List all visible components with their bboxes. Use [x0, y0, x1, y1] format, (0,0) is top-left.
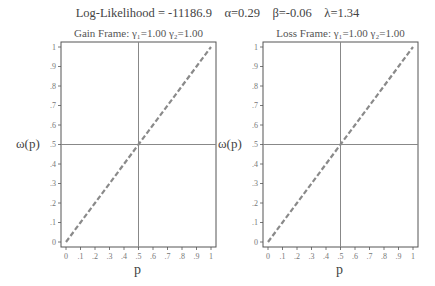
loss-x-tick-label: .8 — [381, 252, 387, 261]
loss-x-tick-label: .5 — [338, 252, 344, 261]
gain-y-tick-label: .8 — [50, 82, 56, 91]
gain-y-tick-label: .1 — [50, 218, 56, 227]
loss-x-tick-label: 0 — [266, 252, 270, 261]
loss-y-tick-label: 0 — [254, 238, 258, 247]
loss-y-tick-label: .3 — [252, 179, 258, 188]
loss-y-tick-label: .4 — [252, 160, 258, 169]
gain-x-tick-label: .5 — [136, 252, 142, 261]
gain-y-tick-label: .3 — [50, 179, 56, 188]
loss-x-tick-label: .1 — [280, 252, 286, 261]
gain-y-tick-label: .2 — [50, 199, 56, 208]
loss-x-tick-label: .3 — [309, 252, 315, 261]
loss-x-tick-label: .4 — [323, 252, 329, 261]
loss-y-tick-label: .7 — [252, 101, 258, 110]
gain-x-tick-label: .4 — [121, 252, 127, 261]
gain-y-tick-label: 1 — [52, 43, 56, 52]
loss-x-tick-label: 1 — [411, 252, 415, 261]
loss-y-tick-label: .2 — [252, 199, 258, 208]
gain-x-tick-label: .9 — [194, 252, 200, 261]
gain-y-tick-label: .4 — [50, 160, 56, 169]
loss-y-tick-label: .8 — [252, 82, 258, 91]
plot-canvas: 0.1.2.3.4.5.6.7.8.910.1.2.3.4.5.6.7.8.91… — [0, 0, 435, 286]
gain-x-tick-label: .6 — [150, 252, 156, 261]
loss-x-tick-label: .7 — [367, 252, 373, 261]
gain-x-tick-label: .2 — [92, 252, 98, 261]
gain-x-tick-label: .8 — [179, 252, 185, 261]
loss-y-tick-label: 1 — [254, 43, 258, 52]
loss-y-tick-label: .6 — [252, 121, 258, 130]
gain-x-tick-label: 0 — [64, 252, 68, 261]
gain-y-tick-label: .6 — [50, 121, 56, 130]
gain-y-tick-label: .7 — [50, 101, 56, 110]
gain-x-tick-label: .1 — [78, 252, 84, 261]
gain-x-tick-label: 1 — [209, 252, 213, 261]
loss-y-tick-label: .9 — [252, 62, 258, 71]
loss-x-tick-label: .6 — [352, 252, 358, 261]
loss-x-tick-label: .9 — [396, 252, 402, 261]
gain-x-tick-label: .7 — [165, 252, 171, 261]
gain-x-tick-label: .3 — [107, 252, 113, 261]
gain-y-tick-label: .5 — [50, 140, 56, 149]
loss-y-tick-label: .1 — [252, 218, 258, 227]
loss-y-tick-label: .5 — [252, 140, 258, 149]
loss-x-tick-label: .2 — [294, 252, 300, 261]
gain-y-tick-label: .9 — [50, 62, 56, 71]
gain-y-tick-label: 0 — [52, 238, 56, 247]
